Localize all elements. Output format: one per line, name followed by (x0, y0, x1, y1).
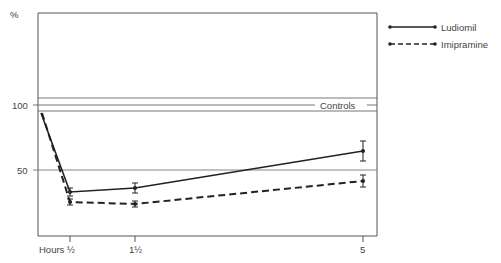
series-ludiomil (41, 113, 363, 192)
legend-imipramine-label: Imipramine (441, 39, 488, 50)
x-label-1-5: 1½ (129, 244, 142, 255)
error-bars-ludiomil (67, 141, 366, 196)
controls-label: Controls (320, 100, 356, 111)
y-tick-50: 50 (17, 165, 28, 176)
y-tick-100: 100 (12, 100, 28, 111)
chart: Controls % 100 50 Hours ½ 1½ 5 Ludiomil … (0, 0, 501, 263)
x-label-hours: Hours ½ (39, 244, 75, 255)
legend: Ludiomil Imipramine (388, 22, 488, 50)
legend-ludiomil-label: Ludiomil (441, 22, 476, 33)
y-unit-label: % (10, 9, 19, 20)
error-bars-imipramine (67, 175, 366, 207)
x-label-5: 5 (360, 244, 365, 255)
